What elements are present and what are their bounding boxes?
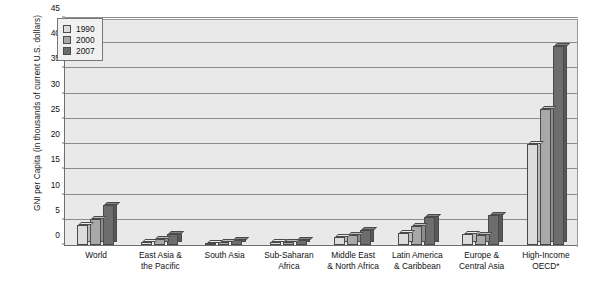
legend-label: 1990: [76, 24, 95, 34]
y-tick-label-0: 0: [55, 230, 60, 240]
bar-1990: [77, 225, 88, 245]
bar-side-face: [422, 223, 425, 242]
y-tick-label-30: 30: [51, 79, 60, 89]
bar-side-face: [114, 203, 117, 243]
y-tick-label-15: 15: [51, 154, 60, 164]
bar-top-face: [361, 227, 377, 230]
bar-1990: [398, 233, 409, 245]
bar-front-face: [77, 225, 88, 245]
bar-group: [258, 19, 322, 245]
x-axis-label-line: OECD*: [506, 261, 586, 272]
x-axis-label-line: the Pacific: [120, 261, 200, 272]
legend-label: 2000: [76, 35, 95, 45]
bar-front-face: [462, 234, 473, 245]
bar-1990: [205, 243, 216, 245]
bar-group: [129, 19, 193, 245]
bar-group: [515, 19, 579, 245]
legend-item-1990: 1990: [63, 23, 95, 34]
bar-front-face: [475, 235, 486, 245]
legend-item-2000: 2000: [63, 34, 95, 45]
bar-2000: [411, 226, 422, 245]
bar-2007: [103, 205, 114, 245]
x-axis-label-line: High-Income: [506, 250, 586, 261]
bar-front-face: [334, 237, 345, 245]
bar-group: [194, 19, 258, 245]
bar-top-face: [207, 240, 223, 243]
bar-front-face: [283, 242, 294, 245]
bar-top-face: [490, 212, 506, 215]
bar-front-face: [398, 233, 409, 245]
y-axis-title-area: GNI per Capita (in thousands of current …: [0, 0, 40, 301]
bar-2007: [424, 217, 435, 245]
bar-front-face: [527, 144, 538, 245]
bar-1990: [270, 242, 281, 245]
gridline-45: [65, 17, 578, 18]
bar-2000: [283, 242, 294, 245]
y-axis-title-line1: GNI per Capita: [33, 155, 43, 211]
bar-side-face: [538, 142, 541, 243]
bar-group: [386, 19, 450, 245]
bar-2007: [553, 46, 564, 245]
legend-swatch-icon: [63, 47, 71, 55]
legend-item-2007: 2007: [63, 45, 95, 56]
bar-group: [451, 19, 515, 245]
bar-front-face: [540, 109, 551, 245]
bar-1990: [527, 144, 538, 245]
bar-front-face: [141, 242, 152, 245]
y-tick-label-45: 45: [51, 3, 60, 13]
bar-top-face: [477, 232, 493, 235]
y-tick-label-20: 20: [51, 129, 60, 139]
bar-front-face: [488, 215, 499, 245]
bar-front-face: [411, 226, 422, 245]
legend-swatch-icon: [63, 25, 71, 33]
x-axis-label: High-IncomeOECD*: [506, 250, 586, 271]
legend-swatch-icon: [63, 36, 71, 44]
bar-2000: [540, 109, 551, 245]
bar-front-face: [553, 46, 564, 245]
bar-top-face: [168, 231, 184, 234]
bar-front-face: [218, 242, 229, 245]
plot-area: 051015202530354045: [64, 19, 578, 246]
bar-front-face: [270, 242, 281, 245]
bar-side-face: [101, 216, 104, 242]
bar-side-face: [88, 222, 91, 242]
y-axis-title-line2: (in thousands of current U.S. dollars): [33, 15, 43, 152]
bar-front-face: [205, 243, 216, 245]
bar-front-face: [424, 217, 435, 245]
y-tick-label-10: 10: [51, 180, 60, 190]
bar-side-face: [435, 215, 438, 243]
bar-side-face: [499, 212, 502, 242]
bar-top-face: [425, 214, 441, 217]
bar-1990: [334, 237, 345, 245]
bar-top-face: [104, 202, 120, 205]
bar-2007: [488, 215, 499, 245]
bar-2000: [475, 235, 486, 245]
bar-2000: [218, 242, 229, 245]
y-tick-label-5: 5: [55, 205, 60, 215]
plot-right-border: [577, 19, 578, 247]
bar-top-face: [554, 43, 570, 46]
legend-label: 2007: [76, 46, 95, 56]
bar-1990: [141, 242, 152, 245]
bar-top-face: [541, 106, 557, 109]
bar-group: [322, 19, 386, 245]
legend: 199020002007: [57, 18, 103, 61]
y-tick-label-25: 25: [51, 104, 60, 114]
bar-front-face: [103, 205, 114, 245]
bar-2000: [347, 235, 358, 245]
bar-side-face: [551, 106, 554, 242]
plot-top-border: [64, 19, 578, 20]
bar-top-face: [464, 231, 480, 234]
bar-side-face: [564, 43, 567, 242]
bar-1990: [462, 234, 473, 245]
gni-per-capita-bar-chart: GNI per Capita (in thousands of current …: [0, 0, 597, 301]
bar-front-face: [347, 235, 358, 245]
